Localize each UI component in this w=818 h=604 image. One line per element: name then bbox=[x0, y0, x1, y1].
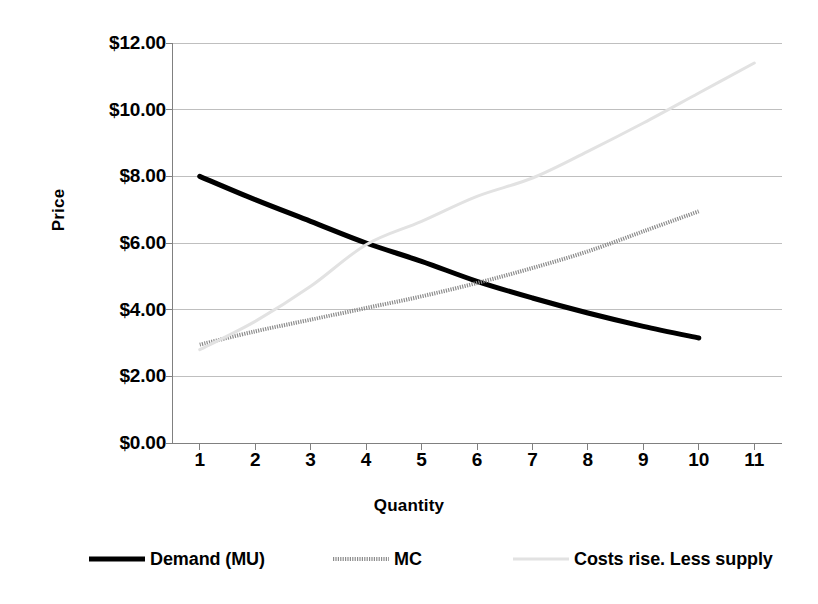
data-series bbox=[200, 63, 755, 350]
legend-swatch-solid-black-line bbox=[88, 552, 146, 566]
axis-tickmarks bbox=[166, 43, 754, 450]
legend-label: Costs rise. Less supply bbox=[574, 549, 773, 570]
series-line-demand-mu bbox=[200, 176, 699, 338]
legend-entry[interactable]: Costs rise. Less supply bbox=[512, 544, 773, 574]
chart-container: Price $0.00$2.00$4.00$6.00$8.00$10.00$12… bbox=[0, 0, 818, 604]
legend-swatch-faint-gray-line bbox=[512, 552, 570, 566]
series-line-mc bbox=[200, 211, 699, 344]
series-line-costs-rise-less-supply bbox=[200, 63, 755, 350]
plot-area bbox=[0, 0, 818, 604]
chart-legend: Demand (MU)MCCosts rise. Less supply bbox=[88, 544, 788, 578]
gridlines bbox=[172, 43, 782, 443]
legend-label: Demand (MU) bbox=[150, 549, 265, 570]
legend-label: MC bbox=[394, 549, 422, 570]
legend-swatch-dotted-gray-line bbox=[332, 552, 390, 566]
legend-entry[interactable]: Demand (MU) bbox=[88, 544, 265, 574]
legend-entry[interactable]: MC bbox=[332, 544, 422, 574]
